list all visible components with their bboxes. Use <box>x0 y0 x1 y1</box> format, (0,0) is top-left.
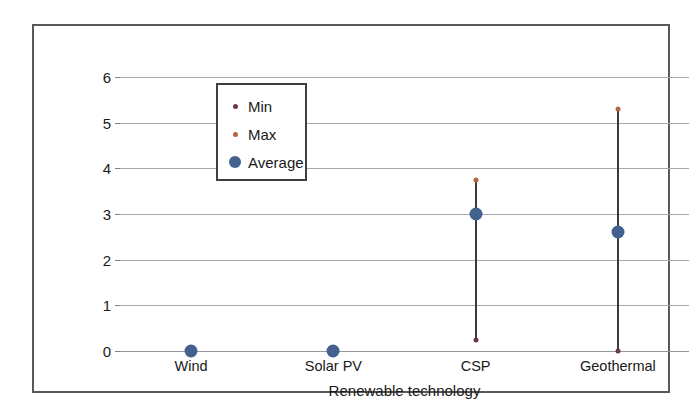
datapoint-average-csp <box>469 208 482 221</box>
legend-entry-max: Max <box>227 120 305 148</box>
x-tick-label-geothermal: Geothermal <box>580 359 656 374</box>
y-tick-mark-3 <box>115 214 120 215</box>
gridline-y-4 <box>120 168 689 169</box>
figure-frame-border: Water consumption (l/kWh) 0123456WindSol… <box>32 24 670 393</box>
y-tick-mark-5 <box>115 123 120 124</box>
legend-label-max: Max <box>248 127 276 142</box>
y-tick-label-3: 3 <box>103 207 111 222</box>
gridline-y-6 <box>120 77 689 78</box>
legend-entry-min: Min <box>227 92 305 120</box>
datapoint-min-geothermal <box>615 349 620 354</box>
y-tick-label-5: 5 <box>103 115 111 130</box>
y-tick-label-1: 1 <box>103 298 111 313</box>
datapoint-max-geothermal <box>615 106 620 111</box>
gridline-y-5 <box>120 123 689 124</box>
chart-legend: Min Max Average <box>216 83 307 181</box>
y-tick-label-6: 6 <box>103 70 111 85</box>
legend-entry-average: Average <box>227 148 305 176</box>
datapoint-min-csp <box>473 337 478 342</box>
datapoint-average-solar-pv <box>327 345 340 358</box>
x-tick-label-wind: Wind <box>175 359 208 374</box>
small-dot-marker-icon <box>227 104 243 109</box>
small-dot-marker-icon <box>227 132 243 137</box>
y-tick-mark-4 <box>115 168 120 169</box>
legend-label-average: Average <box>248 155 304 170</box>
gridline-y-3 <box>120 214 689 215</box>
y-tick-label-2: 2 <box>103 252 111 267</box>
gridline-y-0 <box>120 351 689 352</box>
y-tick-mark-2 <box>115 260 120 261</box>
x-tick-label-solar-pv: Solar PV <box>305 359 362 374</box>
x-tick-label-csp: CSP <box>461 359 491 374</box>
x-axis-title: Renewable technology <box>120 383 689 398</box>
gridline-y-2 <box>120 260 689 261</box>
large-dot-marker-icon <box>227 156 243 168</box>
y-tick-mark-1 <box>115 305 120 306</box>
y-tick-label-4: 4 <box>103 161 111 176</box>
y-tick-label-0: 0 <box>103 344 111 359</box>
chart-figure: Water consumption (l/kWh) 0123456WindSol… <box>0 0 692 410</box>
y-tick-mark-6 <box>115 77 120 78</box>
legend-label-min: Min <box>248 99 272 114</box>
range-line <box>475 180 477 340</box>
plot-area: 0123456WindSolar PVCSPGeothermal <box>120 77 689 351</box>
datapoint-average-geothermal <box>611 226 624 239</box>
y-tick-mark-0 <box>115 351 120 352</box>
datapoint-max-csp <box>473 177 478 182</box>
datapoint-average-wind <box>185 345 198 358</box>
gridline-y-1 <box>120 305 689 306</box>
